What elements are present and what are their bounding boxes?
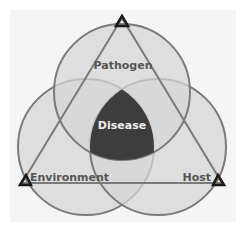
host-label: Host [182,171,211,184]
disease-triangle-diagram: Pathogen Disease Environment Host [0,0,244,231]
pathogen-label: Pathogen [93,59,152,72]
environment-label: Environment [30,171,109,184]
disease-label: Disease [98,119,146,132]
